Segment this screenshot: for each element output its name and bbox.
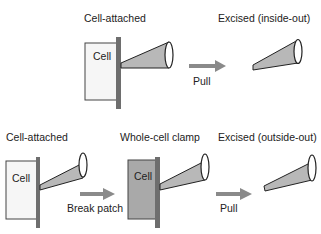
bottom-pull-label: Pull: [220, 202, 238, 214]
top-excised-pipette: [253, 40, 298, 70]
bottom-arrow-head: [240, 188, 252, 200]
top-pull-arrow: Pull: [189, 60, 226, 87]
whole-cell-membrane: [155, 157, 160, 228]
top-arrow-head: [215, 60, 226, 72]
whole-cell-cell: [128, 160, 157, 219]
top-inside-out-title: Excised (inside-out): [218, 12, 310, 24]
bottom-cell-attached-title: Cell-attached: [6, 131, 68, 143]
outside-out-pipette-opening: [308, 155, 316, 181]
whole-cell-pipette-opening: [201, 154, 209, 180]
outside-out-stage: Excised (outside-out): [218, 131, 317, 191]
top-cell-attached-stage: Cell-attached Cell: [84, 12, 173, 109]
bottom-cell-label: Cell: [12, 172, 30, 184]
bottom-pipette: [40, 163, 83, 190]
top-cell-label: Cell: [93, 50, 111, 62]
whole-cell-title: Whole-cell clamp: [120, 131, 200, 143]
bottom-pipette-opening: [79, 153, 87, 177]
break-arrow-head: [103, 188, 115, 200]
top-inside-out-stage: Excised (inside-out): [218, 12, 310, 70]
bottom-cell: [6, 161, 37, 219]
break-patch-label: Break patch: [67, 202, 123, 214]
bottom-pull-arrow: Pull: [216, 188, 252, 214]
bottom-membrane: [36, 157, 40, 228]
top-cell-attached-title: Cell-attached: [84, 12, 146, 24]
top-pull-label: Pull: [193, 75, 211, 87]
outside-out-pipette: [264, 162, 312, 191]
top-pipette: [121, 42, 169, 68]
top-pipette-opening: [165, 42, 173, 68]
whole-cell-stage: Whole-cell clamp Cell: [120, 131, 209, 228]
whole-cell-pipette: [160, 161, 205, 190]
whole-cell-label: Cell: [134, 170, 152, 182]
outside-out-title: Excised (outside-out): [218, 131, 317, 143]
top-excised-pipette-opening: [294, 40, 302, 64]
break-patch-arrow: Break patch: [67, 188, 123, 214]
patch-clamp-diagram: Cell-attached Cell Pull Excised (inside-…: [0, 0, 321, 234]
top-membrane: [116, 37, 121, 109]
